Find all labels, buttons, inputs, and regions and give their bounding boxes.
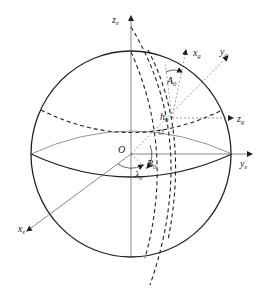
ye-label: ye [239, 158, 247, 170]
xg-label: xg [192, 47, 201, 59]
equator-front [31, 154, 232, 177]
yg-label: yg [219, 46, 228, 58]
A0-arc [166, 70, 182, 72]
zg-label: zg [236, 113, 245, 125]
lambda0-label: λ0 [134, 169, 143, 181]
xe-label: xe [17, 223, 25, 235]
ze-label: ze [111, 14, 119, 26]
latitude-circle [41, 110, 222, 133]
lambda0-arc [118, 164, 143, 168]
B0-label: B0 [147, 158, 157, 170]
equator-back [31, 131, 232, 154]
sphere-diagram: ze ye xe xg yg zg O A0 h0 B0 λ0 [0, 0, 263, 294]
h0-label: h0 [160, 111, 169, 123]
meridian-inner [131, 52, 157, 258]
origin-label: O [118, 144, 125, 155]
projection-line [131, 154, 148, 170]
A0-label: A0 [166, 75, 177, 87]
xe-axis [27, 154, 131, 231]
